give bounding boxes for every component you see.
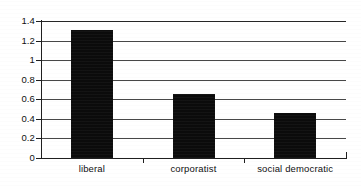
bar-chart: 00.20.40.60.811.21.4liberalcorporatistso… bbox=[0, 0, 361, 186]
y-axis-tick-label: 0 bbox=[0, 153, 35, 163]
plot-area bbox=[41, 21, 346, 158]
y-axis-tick-label: 0.8 bbox=[0, 75, 35, 85]
y-axis-tick-label: 1 bbox=[0, 55, 35, 65]
bar bbox=[274, 113, 316, 158]
x-axis-category-label: liberal bbox=[41, 163, 143, 174]
x-axis-end-cap bbox=[346, 152, 347, 159]
gridline bbox=[41, 21, 346, 22]
bar bbox=[71, 30, 113, 158]
x-axis-separator-tick bbox=[244, 158, 245, 163]
x-axis-line bbox=[41, 158, 347, 159]
y-axis-tick-label: 0.4 bbox=[0, 114, 35, 124]
x-axis-separator-tick bbox=[143, 158, 144, 163]
y-axis-tick-label: 0.2 bbox=[0, 133, 35, 143]
y-axis-tick-label: 1.4 bbox=[0, 16, 35, 26]
x-axis-category-label: corporatist bbox=[143, 163, 245, 174]
y-axis-tick-label: 0.6 bbox=[0, 94, 35, 104]
x-axis-category-label: social democratic bbox=[244, 163, 346, 174]
y-axis-tick-label: 1.2 bbox=[0, 36, 35, 46]
x-axis-start-cap bbox=[41, 152, 42, 159]
bar bbox=[173, 94, 215, 158]
y-axis-line bbox=[41, 20, 42, 159]
